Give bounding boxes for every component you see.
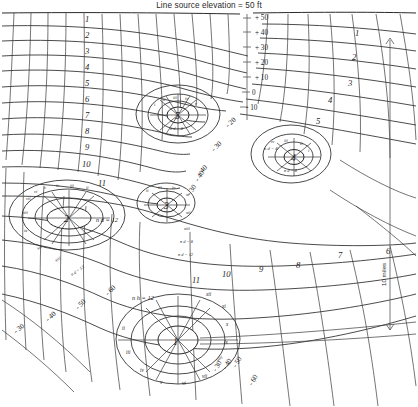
elev-tick: + 20 [255,59,268,67]
elev-tick: + 10 [255,74,268,82]
roman-numeral: iv [271,139,275,144]
roman-numeral: iii [126,349,131,355]
well-nd-label: n d = 8 [180,239,194,244]
equipotential-lines-left [2,26,248,204]
contour-label: - 50 [74,297,88,311]
roman-numeral: vii [26,196,31,201]
well-label: 5 [175,111,180,121]
well-1-group: 1 n h = 12 ii iii iv v vi vii viii ix x … [116,291,240,386]
roman-numeral: v [160,379,163,385]
well-nd-label: n d = 12 [178,252,194,257]
flow-net-diagram: + 50 + 40 + 30 + 20 + 10 0 - 10 - 20 - 3… [0,0,418,407]
roman-numeral: xii [205,291,212,297]
contour-label: - 60 [247,373,260,387]
roman-numeral: vii [202,373,208,379]
roman-numeral: iii [70,183,75,188]
equipotential-number: 2 [352,52,357,62]
contour-label: - 30 [185,183,198,197]
equipotential-numbers-left: 1 2 3 4 5 6 7 8 9 10 11 [82,14,106,188]
roman-numeral: i [308,148,310,153]
equipotential-number: 3 [84,46,89,56]
elev-tick: + 50 [255,14,268,22]
roman-numeral: ii [122,325,125,331]
flow-lines-upper-left [6,13,229,180]
contour-label: - 30 [210,139,224,153]
well-label: 1 [173,337,178,347]
roman-numeral: xii [185,210,191,215]
roman-numeral: ii [86,185,89,190]
roman-numeral: v [44,185,47,190]
equipotential-number: 10 [222,269,231,279]
contour-label: - 20 [224,116,238,130]
equipotential-number: 11 [98,178,106,188]
equipotential-number: 7 [338,250,343,260]
equipotential-number: 7 [85,110,90,120]
roman-numeral: iii [284,138,289,143]
well-5-group: 5 n d = 8 i ii iii iv v [136,85,220,143]
contour-label: - 50 [231,355,244,369]
elevation-tick-labels: + 50 + 40 + 30 + 20 + 10 0 - 10 [246,14,268,112]
roman-numeral: xi [221,303,226,309]
roman-numeral: viii [22,210,29,215]
well-label: 3 [163,201,169,211]
contour-label: - 60 [104,283,118,297]
contour-labels-lower-left: - 30 - 40 - 50 - 60 [12,283,117,335]
roman-numeral: vi [182,380,186,386]
roman-numeral: x [225,321,229,327]
contour-label: - 40 [44,310,58,324]
well-label: 2 [64,214,69,224]
roman-numeral: v [195,101,198,106]
well-nd-label: n h = 12 [132,294,155,301]
well-nd-label: n d = 8 [284,168,298,173]
well-nd-label: n d = 12 [96,216,119,223]
contour-labels-well3: - 30 - 40 [185,169,206,197]
well-label: 4 [291,153,296,163]
equipotential-number: 6 [85,94,90,104]
equipotential-number: 3 [347,78,352,88]
equipotential-numbers-right: 1 2 3 4 5 6 7 [316,28,391,260]
equipotential-number: 1 [85,14,89,24]
equipotential-number: 11 [192,275,200,285]
equipotential-number: 2 [85,30,90,40]
elev-tick: + 40 [255,29,268,37]
roman-numeral: iv [172,185,176,190]
scale-bar-label: 10 miles [380,263,387,286]
elev-tick: + 30 [255,44,268,52]
roman-numeral: ii [146,188,149,193]
well-2-group: 2 n d = 12 vii vi v iv iii ii viii ix xi… [9,180,125,277]
well-nd-label: n d = 4 [264,146,278,151]
equipotential-number: 8 [85,126,90,136]
roman-numeral: iv [140,367,144,373]
equipotential-number: 4 [328,95,333,105]
roman-numeral: ix [24,228,27,233]
roman-numeral: xiii [183,226,191,231]
equipotential-number: 1 [355,28,359,38]
well-nd-label: n d = 8 [170,126,184,131]
well-4-group: 4 n d = 8 iv n d = 4 iii ii i [251,125,331,183]
roman-numeral: i [154,102,156,107]
roman-numeral: vi [34,189,38,194]
equipotential-number: 9 [259,264,264,274]
line-source-boundary [2,12,416,14]
equipotential-number: 4 [85,62,90,72]
flow-lines-lower [5,168,417,406]
equipotential-number: 9 [85,142,90,152]
equipotential-number: 10 [82,159,91,169]
roman-numeral: iii [158,185,163,190]
equipotential-number: 5 [85,78,90,88]
flow-lines-upper-right [258,14,416,158]
elev-tick: - 10 [246,104,258,112]
roman-numeral: iii [173,95,178,100]
elev-tick: 0 [252,89,256,97]
roman-numeral: iv [56,183,60,188]
equipotential-number: 5 [316,116,321,126]
